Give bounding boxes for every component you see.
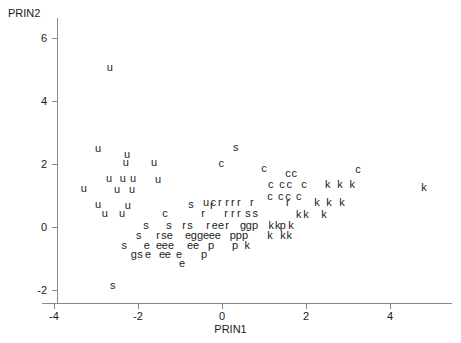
data-point-marker: k (296, 209, 302, 220)
scatter-plot-canvas: PRIN2 PRIN1 -4-2024 6420-2 uuusuucccccuu… (0, 0, 461, 343)
data-point-marker: r (231, 196, 235, 207)
y-tick-mark (52, 290, 58, 291)
data-point-marker: r (231, 208, 235, 219)
data-point-marker: r (218, 196, 222, 207)
data-point-marker: e (179, 257, 185, 268)
data-point-marker: u (102, 208, 108, 219)
data-point-marker: u (203, 196, 209, 207)
data-point-marker: r (225, 196, 229, 207)
y-tick-mark (52, 101, 58, 102)
data-point-marker: k (303, 209, 309, 220)
y-axis-line (57, 18, 58, 304)
x-tick-label: -4 (49, 311, 59, 322)
y-tick-label: -2 (37, 285, 47, 296)
data-point-marker: s (137, 249, 143, 260)
data-point-marker: e (165, 249, 171, 260)
data-point-marker: u (120, 173, 126, 184)
data-point-marker: r (237, 196, 241, 207)
data-point-marker: s (188, 198, 194, 209)
data-point-marker: k (421, 181, 427, 192)
data-point-marker: k (286, 230, 292, 241)
x-tick-label: 2 (303, 311, 309, 322)
y-tick-label: 2 (41, 159, 47, 170)
data-point-marker: c (301, 178, 307, 189)
data-point-marker: c (296, 190, 302, 201)
y-tick-label: 4 (41, 96, 47, 107)
data-point-marker: p (201, 249, 207, 260)
data-point-marker: c (267, 190, 273, 201)
x-tick-label: 0 (219, 311, 225, 322)
data-point-marker: u (129, 183, 135, 194)
data-point-marker: g (131, 249, 137, 260)
y-tick-mark (52, 164, 58, 165)
data-point-marker: u (106, 173, 112, 184)
data-point-marker: k (314, 197, 320, 208)
data-point-marker: k (337, 179, 343, 190)
y-tick-label: 0 (41, 222, 47, 233)
x-axis-title: PRIN1 (214, 324, 246, 335)
data-point-marker: r (286, 197, 290, 208)
data-point-marker: k (349, 179, 355, 190)
data-point-marker: e (145, 249, 151, 260)
data-point-marker: k (244, 239, 250, 250)
y-tick-label: 6 (41, 33, 47, 44)
data-point-marker: s (233, 141, 239, 152)
data-point-marker: u (81, 182, 87, 193)
data-point-marker: r (210, 199, 214, 210)
y-axis-title: PRIN2 (8, 8, 40, 19)
data-point-marker: k (267, 230, 273, 241)
data-point-marker: c (279, 178, 285, 189)
data-point-marker: c (261, 162, 267, 173)
data-point-marker: c (286, 178, 292, 189)
data-point-marker: u (155, 174, 161, 185)
data-point-marker: u (114, 183, 120, 194)
data-point-marker: p (208, 239, 214, 250)
data-point-marker: c (268, 178, 274, 189)
x-tick-label: -2 (133, 311, 143, 322)
x-tick-label: 4 (387, 311, 393, 322)
data-point-marker: u (95, 142, 101, 153)
data-point-marker: k (326, 197, 332, 208)
data-point-marker: c (278, 190, 284, 201)
data-point-marker: c (218, 158, 224, 169)
y-tick-mark (52, 227, 58, 228)
x-tick-mark (306, 303, 307, 309)
data-point-marker: e (215, 230, 221, 241)
data-point-marker: u (151, 156, 157, 167)
data-point-marker: k (321, 209, 327, 220)
data-point-marker: c (355, 164, 361, 175)
data-point-marker: s (143, 219, 149, 230)
x-tick-mark (222, 303, 223, 309)
data-point-marker: u (95, 199, 101, 210)
data-point-marker: u (125, 199, 131, 210)
data-point-marker: k (339, 197, 345, 208)
data-point-marker: u (107, 61, 113, 72)
data-point-marker: u (119, 208, 125, 219)
data-point-marker: u (123, 157, 129, 168)
data-point-marker: p (252, 219, 258, 230)
x-tick-mark (54, 303, 55, 309)
x-tick-mark (138, 303, 139, 309)
data-point-marker: k (280, 230, 286, 241)
data-point-marker: s (121, 239, 127, 250)
data-point-marker: r (250, 196, 254, 207)
data-point-marker: r (201, 208, 205, 219)
data-point-marker: s (136, 230, 142, 241)
data-point-marker: k (325, 179, 331, 190)
x-tick-mark (390, 303, 391, 309)
data-point-marker: s (110, 279, 116, 290)
data-point-marker: e (193, 239, 199, 250)
data-point-marker: r (225, 219, 229, 230)
data-point-marker: p (232, 239, 238, 250)
y-tick-mark (52, 38, 58, 39)
